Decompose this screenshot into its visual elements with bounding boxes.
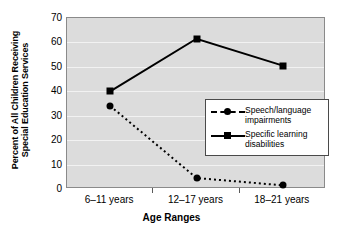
legend-item-specific-learning: Specific learning disabilities: [211, 129, 324, 149]
y-tick-label: 50: [42, 60, 62, 71]
y-tick-label: 70: [42, 12, 62, 23]
data-point-square: [279, 62, 286, 69]
data-point-square: [193, 35, 200, 42]
data-point-square: [107, 88, 114, 95]
y-axis-title: Percent of All Children Receiving Specia…: [0, 0, 40, 200]
legend-label-specific-learning: Specific learning disabilities: [245, 129, 324, 149]
legend-label-speech-language: Speech/language impairments: [245, 105, 324, 125]
y-tick-label: 20: [42, 134, 62, 145]
y-axis-title-line-1: Percent of All Children Receiving: [10, 31, 20, 169]
x-tick-label: 12–17 years: [168, 194, 223, 205]
y-axis-title-line-2: Special Education Services: [20, 43, 30, 157]
y-axis-tick-labels: 010203040506070: [40, 17, 62, 188]
x-tick-mark: [239, 188, 240, 193]
x-tick-mark: [152, 188, 153, 193]
y-tick-label: 10: [42, 158, 62, 169]
data-point-circle: [107, 102, 114, 109]
x-tick-label: 6–11 years: [85, 194, 134, 205]
chart-legend: Speech/language impairments Specific lea…: [205, 99, 329, 156]
y-tick-label: 30: [42, 109, 62, 120]
legend-marker-circle-dashed-icon: [211, 106, 245, 117]
data-point-circle: [279, 182, 286, 189]
series-line-1: [110, 39, 283, 92]
y-tick-label: 60: [42, 36, 62, 47]
chart-figure: Percent of All Children Receiving Specia…: [0, 0, 343, 234]
legend-marker-square-solid-icon: [211, 130, 245, 141]
y-tick-label: 40: [42, 85, 62, 96]
x-axis-title: Age Ranges: [0, 212, 343, 223]
legend-item-speech-language: Speech/language impairments: [211, 105, 324, 125]
y-tick-label: 0: [42, 183, 62, 194]
data-point-circle: [193, 175, 200, 182]
x-tick-label: 18–21 years: [254, 194, 309, 205]
